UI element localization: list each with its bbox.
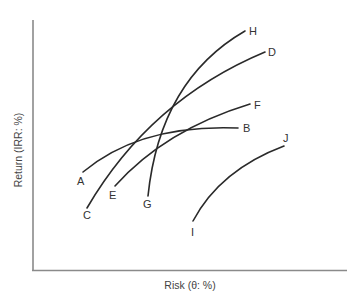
curve-gh xyxy=(148,31,245,196)
diagram-canvas: ABCDEFGHIJ Risk (θ: %) Return (IRR: %) xyxy=(0,0,360,299)
point-label-g: G xyxy=(143,198,152,210)
y-axis-label: Return (IRR: %) xyxy=(12,113,24,188)
point-label-e: E xyxy=(109,189,116,201)
point-label-d: D xyxy=(268,46,276,58)
point-label-c: C xyxy=(83,209,91,221)
point-label-h: H xyxy=(249,25,257,37)
x-axis-label: Risk (θ: %) xyxy=(164,279,215,291)
point-label-b: B xyxy=(243,122,250,134)
point-label-j: J xyxy=(283,132,289,144)
point-label-i: I xyxy=(191,226,194,238)
point-label-a: A xyxy=(77,175,85,187)
curve-cd xyxy=(87,52,265,208)
point-label-f: F xyxy=(254,99,261,111)
curve-ij xyxy=(193,146,284,221)
curve-ef xyxy=(115,104,250,186)
risk-return-diagram: ABCDEFGHIJ Risk (θ: %) Return (IRR: %) xyxy=(0,0,360,299)
